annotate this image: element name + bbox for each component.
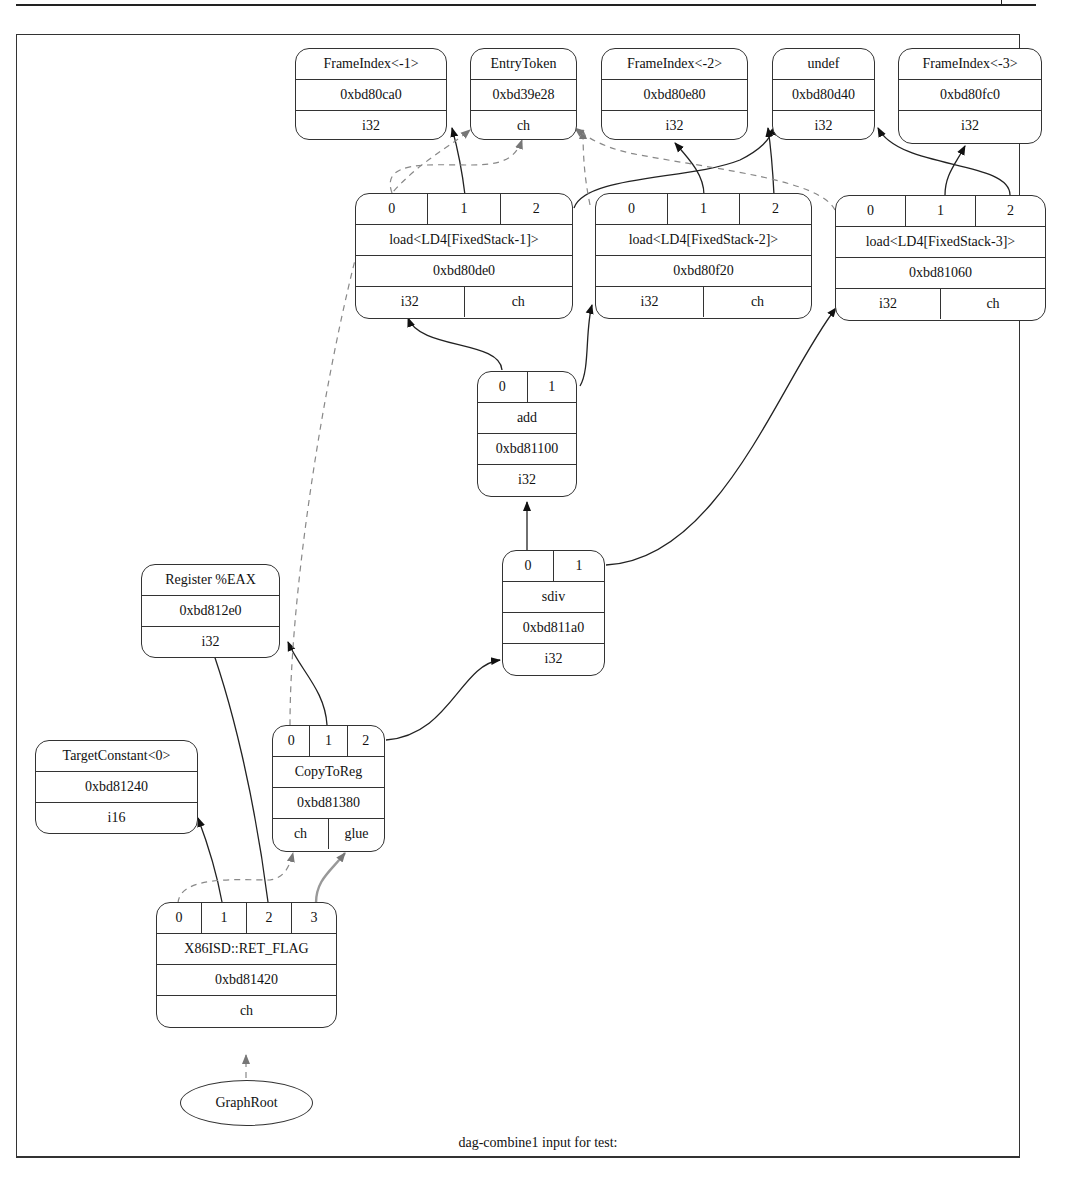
top-rule [16,4,1036,6]
operand-1: 1 [553,551,604,581]
node-operands: 0 1 [478,372,576,402]
node-title: X86ISD::RET_FLAG [157,933,336,964]
node-operands: 0 1 [503,551,604,581]
operand-2: 2 [975,196,1045,226]
operand-2: 2 [739,194,811,224]
node-title: EntryToken [471,49,576,79]
node-address: 0xbd80fc0 [899,79,1041,110]
node-type: i32 [899,110,1041,141]
node-targetconstant[interactable]: TargetConstant<0> 0xbd81240 i16 [35,740,198,834]
node-address: 0xbd80ca0 [296,79,446,110]
operand-0: 0 [478,372,527,402]
node-title: TargetConstant<0> [36,741,197,771]
diagram-caption: dag-combine1 input for test: [0,1135,1076,1151]
type-1: ch [703,287,811,317]
node-sdiv[interactable]: 0 1 sdiv 0xbd811a0 i32 [502,550,605,676]
operand-2: 2 [500,194,572,224]
operand-0: 0 [356,194,427,224]
node-address: 0xbd80f20 [596,255,811,286]
node-address: 0xbd80e80 [602,79,747,110]
type-0: i32 [356,287,464,317]
node-frameindex-m1[interactable]: FrameIndex<-1> 0xbd80ca0 i32 [295,48,447,140]
operand-1: 1 [905,196,975,226]
node-types: i32 ch [356,286,572,317]
type-0: ch [273,819,328,849]
node-type: ch [471,110,576,140]
node-type: i16 [36,802,197,833]
operand-1: 1 [667,194,739,224]
node-operands: 0 1 2 [356,194,572,224]
node-type: i32 [773,110,874,140]
operand-3: 3 [291,903,336,933]
node-copytoreg[interactable]: 0 1 2 CopyToReg 0xbd81380 ch glue [272,725,385,852]
type-0: i32 [836,289,940,319]
operand-2: 2 [347,726,384,756]
node-address: 0xbd812e0 [142,595,279,626]
operand-1: 1 [201,903,246,933]
operand-0: 0 [273,726,309,756]
node-type: i32 [503,643,604,674]
type-1: ch [464,287,573,317]
node-add[interactable]: 0 1 add 0xbd81100 i32 [477,371,577,497]
node-address: 0xbd81420 [157,964,336,995]
node-ret-flag[interactable]: 0 1 2 3 X86ISD::RET_FLAG 0xbd81420 ch [156,902,337,1028]
node-types: i32 ch [836,288,1045,319]
node-title: FrameIndex<-3> [899,49,1041,79]
operand-0: 0 [836,196,905,226]
node-operands: 0 1 2 3 [157,903,336,933]
operand-0: 0 [157,903,201,933]
node-load3[interactable]: 0 1 2 load<LD4[FixedStack-3]> 0xbd81060 … [835,195,1046,321]
node-title: sdiv [503,581,604,612]
node-title: load<LD4[FixedStack-1]> [356,224,572,255]
node-address: 0xbd81380 [273,787,384,818]
operand-0: 0 [596,194,667,224]
node-title: load<LD4[FixedStack-3]> [836,226,1045,257]
node-address: 0xbd80d40 [773,79,874,110]
node-address: 0xbd39e28 [471,79,576,110]
node-title: FrameIndex<-1> [296,49,446,79]
node-address: 0xbd811a0 [503,612,604,643]
operand-0: 0 [503,551,553,581]
node-title: load<LD4[FixedStack-2]> [596,224,811,255]
operand-2: 2 [246,903,291,933]
operand-1: 1 [427,194,499,224]
type-1: ch [940,289,1045,319]
node-address: 0xbd80de0 [356,255,572,286]
node-address: 0xbd81100 [478,433,576,464]
node-operands: 0 1 2 [836,196,1045,226]
operand-1: 1 [309,726,346,756]
node-type: i32 [602,110,747,140]
node-address: 0xbd81240 [36,771,197,802]
node-load1[interactable]: 0 1 2 load<LD4[FixedStack-1]> 0xbd80de0 … [355,193,573,319]
node-title: undef [773,49,874,79]
node-address: 0xbd81060 [836,257,1045,288]
node-types: i32 ch [596,286,811,317]
node-frameindex-m3[interactable]: FrameIndex<-3> 0xbd80fc0 i32 [898,48,1042,144]
node-title: FrameIndex<-2> [602,49,747,79]
type-0: i32 [596,287,703,317]
node-type: i32 [142,626,279,657]
node-title: Register %EAX [142,565,279,595]
node-undef[interactable]: undef 0xbd80d40 i32 [772,48,875,140]
node-operands: 0 1 2 [273,726,384,756]
node-title: add [478,402,576,433]
node-type: ch [157,995,336,1026]
node-graphroot[interactable]: GraphRoot [180,1080,313,1126]
node-operands: 0 1 2 [596,194,811,224]
node-title: CopyToReg [273,756,384,787]
node-type: i32 [296,110,446,140]
node-register-eax[interactable]: Register %EAX 0xbd812e0 i32 [141,564,280,658]
operand-1: 1 [527,372,577,402]
node-types: ch glue [273,818,384,849]
node-entrytoken[interactable]: EntryToken 0xbd39e28 ch [470,48,577,140]
node-frameindex-m2[interactable]: FrameIndex<-2> 0xbd80e80 i32 [601,48,748,140]
type-1: glue [328,819,384,849]
top-tick [1001,0,1002,6]
node-load2[interactable]: 0 1 2 load<LD4[FixedStack-2]> 0xbd80f20 … [595,193,812,319]
node-type: i32 [478,464,576,495]
